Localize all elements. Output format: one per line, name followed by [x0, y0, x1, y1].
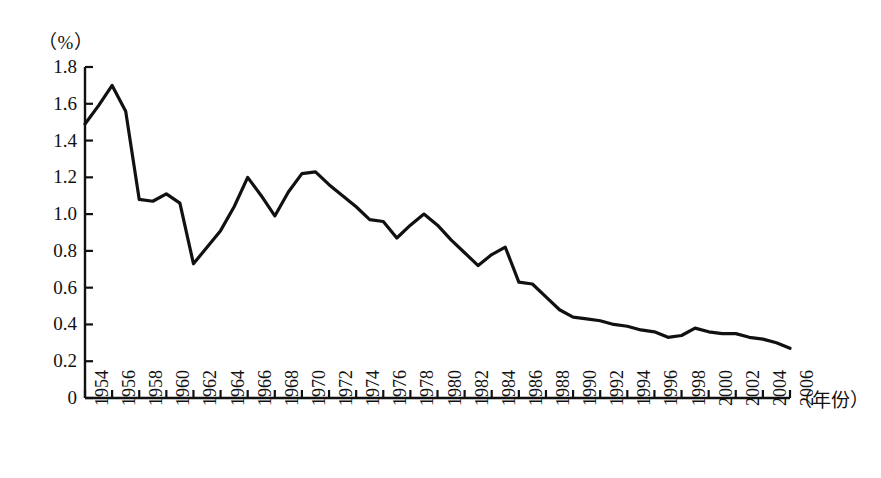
x-axis-tick-label: 1986 [526, 370, 547, 406]
x-axis-tick-label: 1988 [553, 370, 574, 406]
x-axis-tick-label: 1974 [363, 370, 384, 406]
y-axis-tick-label: 1.8 [0, 56, 77, 78]
x-axis-tick-label: 1984 [499, 370, 520, 406]
y-axis-tick-label: 1.6 [0, 93, 77, 115]
x-axis-tick-label: 1954 [92, 370, 113, 406]
x-axis-tick-label: 1968 [282, 370, 303, 406]
y-axis-tick-label: 1.4 [0, 130, 77, 152]
x-axis-tick-label: 1992 [607, 370, 628, 406]
x-axis-tick-label: 2004 [770, 370, 791, 406]
y-axis-tick-label: 0.6 [0, 277, 77, 299]
chart-axes [85, 67, 790, 398]
x-axis-tick-label: 1998 [689, 370, 710, 406]
x-axis-tick-label: 1970 [309, 370, 330, 406]
x-axis-tick-label: 1964 [228, 370, 249, 406]
x-axis-tick-label: 1996 [661, 370, 682, 406]
y-axis-tick-label: 0.8 [0, 240, 77, 262]
y-axis-tick-label: 1.2 [0, 166, 77, 188]
x-axis-tick-label: 1976 [390, 370, 411, 406]
x-axis-tick-label: 1966 [255, 370, 276, 406]
x-axis-tick-label: 2002 [743, 370, 764, 406]
x-axis-tick-label: 1980 [445, 370, 466, 406]
x-axis-tick-label: 1960 [173, 370, 194, 406]
x-axis-tick-label: 1982 [472, 370, 493, 406]
x-axis-tick-label: 1962 [200, 370, 221, 406]
x-axis-tick-label: 1990 [580, 370, 601, 406]
data-series-line [85, 85, 790, 348]
x-axis-tick-label: 1978 [417, 370, 438, 406]
chart-plot-area [0, 0, 881, 478]
x-axis-tick-label: 2000 [716, 370, 737, 406]
line-chart: （%） 00.20.40.60.81.01.21.41.61.8 1954195… [0, 0, 881, 478]
y-axis-tick-label: 0.4 [0, 313, 77, 335]
x-axis-tick-label: 1972 [336, 370, 357, 406]
y-axis-tick-label: 0.2 [0, 350, 77, 372]
x-axis-title: （年份） [793, 385, 869, 412]
y-axis-tick-label: 1.0 [0, 203, 77, 225]
x-axis-tick-label: 1956 [119, 370, 140, 406]
y-axis-tick-label: 0 [0, 387, 77, 409]
x-axis-tick-label: 1994 [634, 370, 655, 406]
x-axis-tick-label: 1958 [146, 370, 167, 406]
